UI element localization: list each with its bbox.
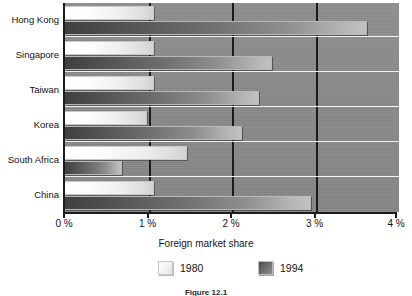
legend-label-1980: 1980 [180,262,203,274]
bar-taiwan-1994[interactable] [65,91,259,105]
dark-gray-swatch-icon [258,261,273,275]
bar-korea-1994[interactable] [65,126,242,140]
figure-container: Hong Kong Singapore Taiwan Korea South A… [0,0,412,296]
light-gray-swatch-icon [158,261,173,275]
group-separator [65,36,399,37]
group-separator [65,106,399,107]
category-label-korea: Korea [0,120,59,130]
category-axis-labels: Hong Kong Singapore Taiwan Korea South A… [0,3,59,212]
bar-singapore-1994[interactable] [65,56,272,70]
x-tick-label-0: 0 % [55,218,72,230]
x-tick-label-3: 3 % [306,218,323,230]
bar-hong-kong-1980[interactable] [65,6,154,20]
bar-south-africa-1994[interactable] [65,161,122,175]
legend-label-1994: 1994 [280,262,303,274]
category-label-singapore: Singapore [0,50,59,60]
bar-china-1994[interactable] [65,196,311,210]
group-separator [65,71,399,72]
legend-item-1980[interactable]: 1980 [158,261,203,275]
bar-taiwan-1980[interactable] [65,76,154,90]
bar-hong-kong-1994[interactable] [65,21,367,35]
bar-korea-1980[interactable] [65,111,147,125]
figure-caption: Figure 12.1 [0,288,412,296]
plot-area [63,3,399,212]
category-label-hong-kong: Hong Kong [0,15,59,25]
x-tick-label-2: 2 % [222,218,239,230]
bar-south-africa-1980[interactable] [65,146,187,160]
legend-item-1994[interactable]: 1994 [258,261,303,275]
chart-legend: 1980 1994 [0,261,412,281]
x-axis-title: Foreign market share [0,238,412,249]
category-label-taiwan: Taiwan [0,85,59,95]
bar-singapore-1980[interactable] [65,41,154,55]
group-separator [65,176,399,177]
x-tick-label-1: 1 % [139,218,156,230]
group-separator [65,141,399,142]
category-label-china: China [0,190,59,200]
x-tick-label-4: 4 % [387,218,404,230]
bar-china-1980[interactable] [65,181,154,195]
category-label-south-africa: South Africa [0,155,59,165]
